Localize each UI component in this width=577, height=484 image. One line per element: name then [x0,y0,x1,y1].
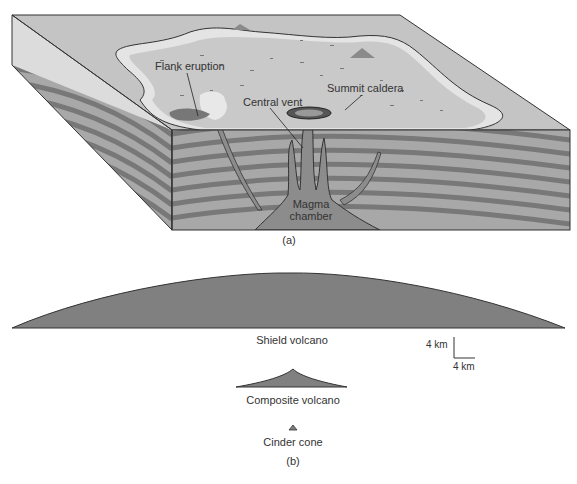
caption-a: (a) [282,234,295,246]
scale-horizontal-label: 4 km [453,361,475,372]
scale-bar [454,337,475,358]
cinder-cone-label: Cinder cone [263,436,322,448]
shield-volcano-profile [12,273,565,328]
composite-volcano-label: Composite volcano [246,394,340,406]
flank-eruption-label: Flank eruption [155,60,225,72]
magma-chamber-label: Magma chamber [290,198,333,222]
caption-b: (b) [286,455,299,467]
central-vent-label: Central vent [243,96,302,108]
summit-caldera-label: Summit caldera [327,82,403,94]
shield-volcano-label: Shield volcano [256,334,328,346]
block-front-face [172,118,570,233]
scale-vertical-label: 4 km [426,339,448,350]
magma-label-line1: Magma [290,198,333,210]
magma-label-line2: chamber [290,210,333,222]
cinder-cone-profile [289,425,297,430]
composite-volcano-profile [236,369,347,387]
